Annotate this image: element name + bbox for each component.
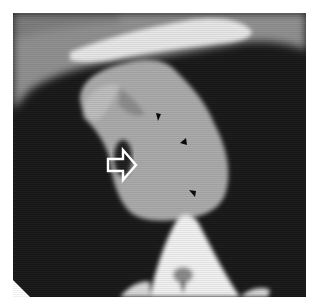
arrowhead-icon-2 <box>179 137 189 147</box>
ct-scan-image <box>13 13 306 297</box>
image-description: Axial CT scan of the thorax showing a me… <box>0 0 1 1</box>
arrowhead-icon-1 <box>153 112 163 122</box>
ct-scan-svg <box>13 13 306 297</box>
arrow-annotation-icon <box>95 145 141 185</box>
image-modality: CT (grayscale) <box>0 0 1 1</box>
arrowhead-icon-3 <box>188 188 198 198</box>
